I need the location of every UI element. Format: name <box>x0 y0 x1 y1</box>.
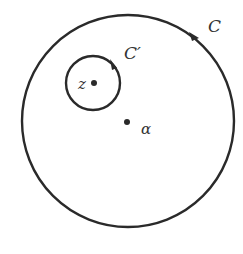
point-alpha-label: α <box>141 120 151 138</box>
point-z-label: z <box>77 75 86 93</box>
contour-diagram: C C′ z α <box>0 0 243 254</box>
point-z <box>91 80 97 86</box>
outer-contour-label: C <box>208 16 221 36</box>
point-alpha <box>124 119 130 125</box>
inner-contour-arrow-icon <box>110 59 117 70</box>
inner-contour-label: C′ <box>124 43 141 63</box>
